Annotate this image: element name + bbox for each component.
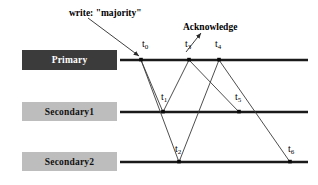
event-label-t3-sub: 3 bbox=[188, 43, 192, 51]
lane-box-secondary1[interactable]: Secondary1 bbox=[22, 102, 117, 121]
event-label-t2-sub: 2 bbox=[178, 148, 182, 156]
annotation-write: write: "majority" bbox=[69, 8, 142, 18]
message-t3-t5 bbox=[189, 60, 239, 112]
lane-label-secondary2: Secondary2 bbox=[45, 157, 95, 167]
event-label-t5-sub: 5 bbox=[238, 96, 242, 104]
event-label-t4: t4 bbox=[215, 38, 221, 49]
event-label-t6: t6 bbox=[288, 143, 294, 154]
lane-label-primary: Primary bbox=[52, 55, 88, 65]
event-dot-t4[interactable] bbox=[217, 58, 221, 62]
event-dot-t6[interactable] bbox=[288, 160, 292, 164]
event-dot-t0[interactable] bbox=[139, 58, 143, 62]
event-dot-t5[interactable] bbox=[237, 110, 241, 114]
event-label-t1-sub: 1 bbox=[164, 96, 168, 104]
lane-box-primary[interactable]: Primary bbox=[22, 50, 117, 70]
event-markers bbox=[139, 58, 292, 164]
annotation-acknowledge: Acknowledge bbox=[183, 22, 237, 32]
event-label-t0: t0 bbox=[142, 38, 148, 49]
lane-box-secondary2[interactable]: Secondary2 bbox=[22, 152, 117, 171]
event-label-t1: t1 bbox=[161, 91, 167, 102]
diagram-canvas: Primary Secondary1 Secondary2 write: "ma… bbox=[0, 0, 318, 185]
lane-label-secondary1: Secondary1 bbox=[45, 107, 95, 117]
message-t1-t3 bbox=[163, 60, 189, 112]
event-label-t3: t3 bbox=[185, 38, 191, 49]
event-dot-t2[interactable] bbox=[177, 160, 181, 164]
event-label-t4-sub: 4 bbox=[218, 43, 222, 51]
event-label-t6-sub: 6 bbox=[291, 148, 295, 156]
event-label-t5: t5 bbox=[235, 91, 241, 102]
event-label-t0-sub: 0 bbox=[145, 43, 149, 51]
event-dot-t3[interactable] bbox=[187, 58, 191, 62]
event-label-t2: t2 bbox=[175, 143, 181, 154]
event-dot-t1[interactable] bbox=[161, 110, 165, 114]
